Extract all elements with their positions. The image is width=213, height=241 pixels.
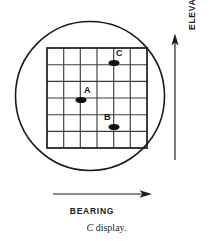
blip-marker-b bbox=[108, 124, 119, 130]
arrow-right-icon bbox=[53, 190, 152, 198]
blip-label-c: C bbox=[116, 49, 123, 58]
bearing-axis-text: BEARING bbox=[70, 206, 114, 216]
blip-label-a: A bbox=[84, 86, 91, 95]
blip-marker-a bbox=[75, 97, 86, 103]
arrow-up-icon bbox=[171, 34, 178, 161]
bearing-axis-label: BEARING bbox=[22, 200, 162, 218]
c-display-figure: ELEVATION ANGLE BEARING A C B C display. bbox=[0, 0, 213, 241]
caption-text: display. bbox=[93, 222, 126, 233]
blip-marker-c bbox=[108, 60, 119, 66]
elevation-angle-axis-text: ELEVATION ANGLE bbox=[187, 0, 197, 30]
blip-label-b: B bbox=[104, 113, 111, 122]
figure-caption: C display. bbox=[0, 222, 213, 233]
elevation-angle-axis-label: ELEVATION ANGLE bbox=[183, 0, 197, 30]
